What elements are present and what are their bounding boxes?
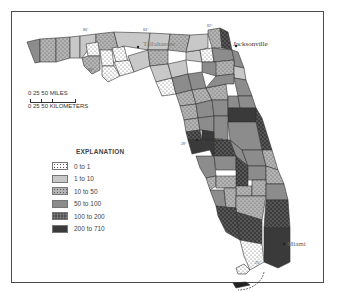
- legend-swatch: [52, 187, 68, 195]
- county-region: [234, 66, 246, 80]
- county-region: [206, 176, 216, 190]
- legend-title: EXPLANATION: [76, 148, 124, 155]
- county-region: [228, 108, 256, 122]
- county-region: [236, 186, 252, 196]
- tallahassee-marker: [137, 46, 139, 48]
- legend-swatch: [52, 212, 68, 220]
- county-region: [40, 38, 56, 62]
- legend-item: 0 to 1: [52, 160, 124, 173]
- miami-marker: [283, 243, 285, 245]
- county-region: [214, 156, 236, 170]
- city-label-jacksonville: Jacksonville: [233, 40, 268, 48]
- county-region: [208, 28, 222, 48]
- county-region: [252, 180, 266, 196]
- city-label-tallahassee: Tallahassee: [143, 40, 175, 48]
- county-region: [70, 36, 80, 58]
- county-region: [220, 28, 232, 50]
- county-region: [196, 156, 216, 178]
- county-region: [86, 42, 100, 56]
- florida-keys: [238, 272, 264, 290]
- county-region: [202, 62, 216, 76]
- county-region: [216, 176, 236, 188]
- legend-label: 10 to 50: [74, 188, 98, 195]
- county-region: [234, 78, 252, 96]
- graticule-label: 84°: [143, 28, 148, 32]
- county-region: [198, 116, 214, 132]
- county-region: [200, 48, 214, 62]
- county-region: [264, 228, 290, 268]
- county-region: [238, 96, 256, 108]
- graticule-label: 86°: [83, 28, 88, 32]
- legend-item: 200 to 710: [52, 223, 124, 236]
- county-region: [180, 104, 198, 120]
- county-region: [210, 190, 226, 208]
- graticule-label: 82°: [207, 24, 212, 28]
- legend-item: 1 to 10: [52, 173, 124, 186]
- legend-label: 50 to 100: [74, 200, 101, 207]
- graticule-label: 28°: [181, 142, 186, 146]
- legend-label: 1 to 10: [74, 175, 94, 182]
- graticule-label: 30°: [88, 68, 93, 72]
- legend-item: 100 to 200: [52, 210, 124, 223]
- county-region: [148, 50, 168, 66]
- legend-item: 50 to 100: [52, 198, 124, 211]
- county-region: [224, 188, 236, 208]
- city-label-tampa: Tampa: [204, 135, 223, 143]
- county-region: [56, 37, 70, 62]
- county-region: [27, 39, 40, 63]
- legend-item: 10 to 50: [52, 185, 124, 198]
- scale-miles-label: 0 25 50 MILES: [28, 90, 88, 97]
- county-region: [212, 100, 228, 116]
- tampa-marker: [196, 139, 198, 141]
- county-region: [216, 206, 240, 240]
- florida-keys: [233, 282, 250, 288]
- county-region: [100, 50, 114, 66]
- legend-label: 0 to 1: [74, 163, 90, 170]
- graticule-label: 25°: [255, 261, 260, 265]
- county-region: [248, 166, 266, 180]
- legend-swatch: [52, 175, 68, 183]
- graticule-label: 26°: [225, 214, 230, 218]
- county-region: [212, 48, 234, 62]
- scale-km-label: 0 25 50 KILOMETERS: [28, 103, 88, 110]
- legend-swatch: [52, 200, 68, 208]
- legend-swatch: [52, 225, 68, 233]
- county-region: [184, 118, 200, 132]
- city-label-miami: Miami: [287, 240, 306, 248]
- legend-label: 200 to 710: [74, 225, 105, 232]
- county-region: [266, 166, 284, 184]
- county-region: [186, 130, 202, 140]
- legend: EXPLANATION 0 to 1 1 to 10 10 to 50 50 t…: [52, 148, 124, 235]
- county-region: [214, 60, 234, 76]
- county-region: [264, 200, 290, 228]
- county-region: [112, 46, 128, 62]
- county-region: [266, 184, 288, 200]
- scale-bar-line: [30, 97, 76, 103]
- scale-bar: 0 25 50 MILES 0 25 50 KILOMETERS: [28, 90, 88, 110]
- legend-swatch: [52, 162, 68, 170]
- legend-label: 100 to 200: [74, 213, 105, 220]
